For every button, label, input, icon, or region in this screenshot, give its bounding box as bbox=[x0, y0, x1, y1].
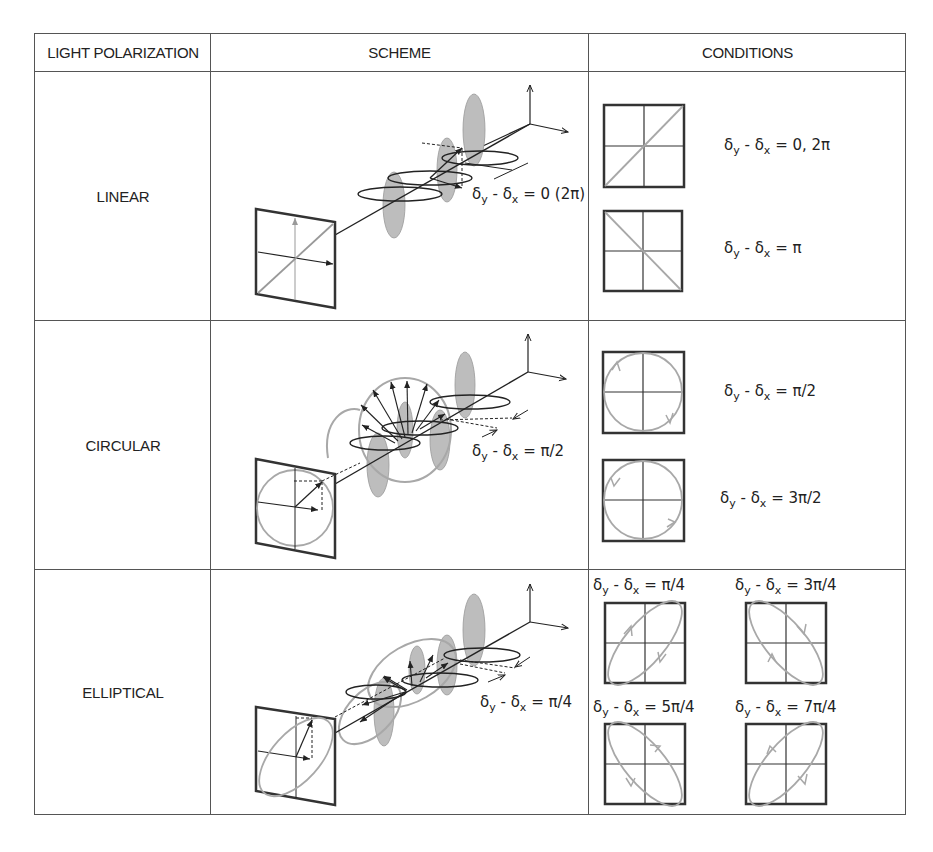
condition-figure-elliptical-3 bbox=[596, 711, 693, 816]
condition-equation-elliptical-3: δy - δx = 5π/4 bbox=[593, 698, 695, 719]
condition-figure-elliptical-2 bbox=[737, 590, 834, 695]
condition-equation-elliptical-4: δy - δx = 7π/4 bbox=[735, 698, 837, 719]
condition-equation-elliptical-1: δy - δx = π/4 bbox=[593, 576, 685, 597]
condition-figure-elliptical-4 bbox=[737, 711, 834, 816]
conditions-elliptical: δy - δx = π/4 δy - δx = 3π/4 δy - δx = 5… bbox=[0, 0, 933, 852]
condition-equation-elliptical-2: δy - δx = 3π/4 bbox=[735, 576, 837, 597]
condition-figure-elliptical-1 bbox=[596, 590, 693, 695]
